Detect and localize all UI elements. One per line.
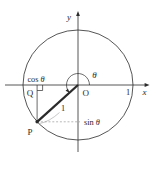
sin-func-text: sin: [84, 118, 95, 127]
point-p-label: P: [27, 127, 32, 137]
angle-arc-arrowhead: [66, 89, 70, 93]
origin-label: O: [83, 88, 90, 98]
sin-var-text: θ: [96, 118, 100, 127]
x-axis-label: x: [142, 87, 147, 97]
radius-op: [37, 85, 78, 122]
radius-length-label: 1: [61, 104, 65, 113]
cos-func-text: cos: [27, 75, 38, 84]
sin-theta-label: sinθ: [84, 118, 100, 127]
y-axis-label: y: [66, 12, 71, 22]
y-axis-arrowhead: [76, 11, 80, 16]
unit-tick-label: 1: [126, 88, 130, 97]
cos-theta-label: cosθ: [27, 75, 44, 84]
angle-theta-label: θ: [92, 70, 97, 80]
right-angle-marker: [37, 85, 43, 91]
cos-var-text: θ: [40, 75, 44, 84]
point-p-dot: [35, 120, 38, 123]
unit-circle-figure: x y 1 O Q cosθ sinθ P 1 θ: [0, 0, 156, 173]
point-q-label: Q: [27, 88, 34, 98]
